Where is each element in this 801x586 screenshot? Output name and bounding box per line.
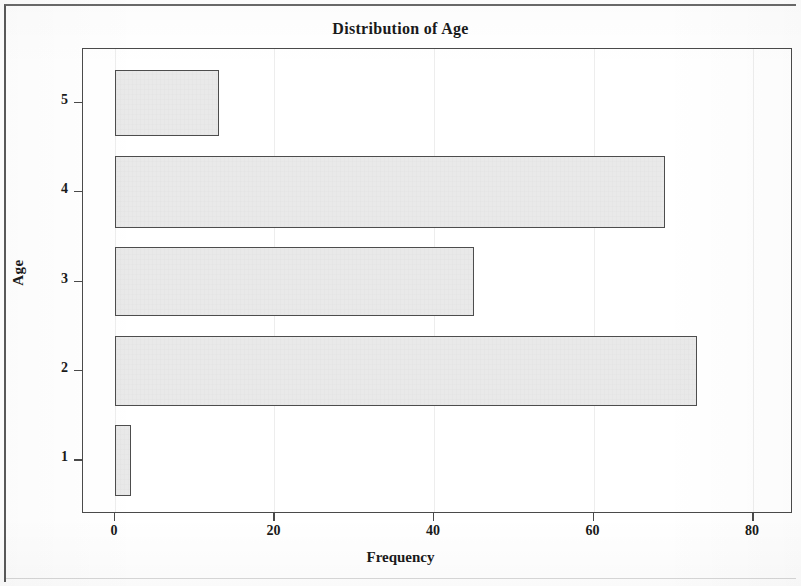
x-axis-tick <box>273 513 274 521</box>
x-axis-tick-label: 0 <box>89 523 139 539</box>
x-axis-tick <box>114 513 115 521</box>
x-axis-tick <box>433 513 434 521</box>
bar-scan-texture <box>116 337 696 406</box>
bar <box>115 425 131 497</box>
y-axis-tick <box>74 191 82 192</box>
y-axis-label: Age <box>10 233 27 313</box>
gridline-vertical <box>753 49 754 512</box>
x-axis-tick-label: 40 <box>408 523 458 539</box>
x-axis-tick-label: 80 <box>727 523 777 539</box>
bar-scan-texture <box>116 157 664 227</box>
bar <box>115 336 697 407</box>
y-axis-tick <box>74 281 82 282</box>
x-axis-tick <box>593 513 594 521</box>
bar-scan-texture <box>116 426 130 496</box>
chart-title: Distribution of Age <box>0 20 801 38</box>
y-axis-tick <box>74 102 82 103</box>
bar <box>115 156 665 228</box>
y-axis-tick-label: 4 <box>28 181 68 197</box>
bar-chart: Distribution of Age 020406080 12345 Freq… <box>0 0 801 586</box>
plot-area <box>82 48 792 513</box>
x-axis-tick-label: 20 <box>248 523 298 539</box>
x-axis-tick-label: 60 <box>568 523 618 539</box>
y-axis-tick-label: 1 <box>28 449 68 465</box>
y-axis-tick-label: 2 <box>28 360 68 376</box>
y-axis-tick <box>74 459 82 460</box>
x-axis-label: Frequency <box>0 549 801 566</box>
bar-scan-texture <box>116 71 218 135</box>
bar <box>115 70 219 136</box>
gridline-vertical <box>594 49 595 512</box>
bar <box>115 247 474 317</box>
y-axis-tick <box>74 370 82 371</box>
x-axis-tick <box>752 513 753 521</box>
bar-scan-texture <box>116 248 473 316</box>
y-axis-tick-label: 3 <box>28 271 68 287</box>
y-axis-tick-label: 5 <box>28 92 68 108</box>
